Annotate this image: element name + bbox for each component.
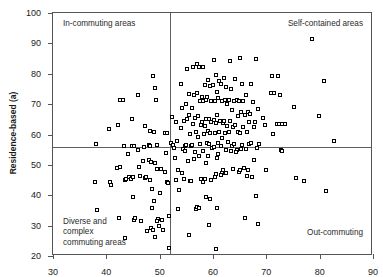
data-point xyxy=(133,216,137,220)
data-point xyxy=(252,125,256,129)
data-point xyxy=(248,112,252,116)
data-point xyxy=(245,174,249,178)
y-axis-title: Residence-based (a) xyxy=(0,0,16,277)
data-point xyxy=(229,149,233,153)
data-point xyxy=(179,82,183,86)
data-point xyxy=(136,148,140,152)
x-axis-tick: 40 xyxy=(106,254,107,259)
data-point xyxy=(271,132,275,136)
data-point xyxy=(215,113,219,117)
data-point xyxy=(233,123,237,127)
data-point xyxy=(256,107,260,111)
data-point xyxy=(122,144,126,148)
y-axis-tick-label: 30 xyxy=(31,221,41,231)
data-point xyxy=(176,207,180,211)
x-axis-tick: 80 xyxy=(320,254,321,259)
data-point xyxy=(94,142,98,146)
data-point xyxy=(201,99,205,103)
data-point xyxy=(167,246,171,250)
data-point xyxy=(219,82,223,86)
data-point xyxy=(278,93,282,97)
data-point xyxy=(208,197,212,201)
data-point xyxy=(332,139,336,143)
data-point xyxy=(192,157,196,161)
data-point xyxy=(142,145,146,149)
data-point xyxy=(251,100,255,104)
data-point xyxy=(254,194,258,198)
data-point xyxy=(236,114,240,118)
quadrant-label-diverse-complex: Diverse and complex commuting areas xyxy=(63,217,126,249)
data-point xyxy=(157,224,161,228)
data-point xyxy=(109,183,113,187)
data-point xyxy=(324,189,328,193)
data-point xyxy=(264,168,268,172)
x-axis-tick: 30 xyxy=(53,254,54,259)
x-axis-tick-label: 60 xyxy=(208,267,218,277)
x-axis-tick: 50 xyxy=(160,254,161,259)
data-point xyxy=(310,37,314,41)
data-point xyxy=(252,158,256,162)
x-axis-tick-label: 90 xyxy=(368,267,378,277)
data-point xyxy=(161,228,165,232)
y-axis-tick-label: 20 xyxy=(31,251,41,261)
data-point xyxy=(187,92,191,96)
data-point xyxy=(118,165,122,169)
data-point xyxy=(180,171,184,175)
x-axis-tick-label: 80 xyxy=(315,267,325,277)
data-point xyxy=(95,208,99,212)
y-axis-tick-label: 70 xyxy=(31,99,41,109)
data-point xyxy=(245,130,249,134)
y-axis-tick-label: 40 xyxy=(31,190,41,200)
data-point xyxy=(203,83,207,87)
data-point xyxy=(250,175,254,179)
data-point xyxy=(247,120,251,124)
data-point xyxy=(232,99,236,103)
data-point xyxy=(185,117,189,121)
data-point xyxy=(276,74,280,78)
data-point xyxy=(93,180,97,184)
y-axis-title-text: Residence-based (a) xyxy=(8,58,18,208)
data-point xyxy=(116,123,120,127)
x-axis-tick: 60 xyxy=(213,254,214,259)
data-point xyxy=(170,115,174,119)
data-point xyxy=(138,174,142,178)
data-point xyxy=(256,222,260,226)
data-point xyxy=(201,149,205,153)
data-point xyxy=(155,143,159,147)
data-point xyxy=(214,73,218,77)
data-point xyxy=(153,86,157,90)
data-point xyxy=(153,161,157,165)
data-point xyxy=(212,58,216,62)
data-point xyxy=(227,130,231,134)
data-point xyxy=(246,168,250,172)
data-point xyxy=(225,124,229,128)
data-point xyxy=(175,139,179,143)
chart-root: Residence-based (a) In-commuting areas S… xyxy=(0,0,383,277)
data-point xyxy=(238,131,242,135)
y-axis-tick: 80 xyxy=(48,74,53,75)
data-point xyxy=(216,152,220,156)
y-axis-tick: 70 xyxy=(48,104,53,105)
data-point xyxy=(228,59,232,63)
data-point xyxy=(150,187,154,191)
y-axis-tick-label: 60 xyxy=(31,130,41,140)
data-point xyxy=(187,233,191,237)
y-axis-tick: 50 xyxy=(48,165,53,166)
data-point xyxy=(177,188,181,192)
data-point xyxy=(206,78,210,82)
data-point xyxy=(231,167,235,171)
data-point xyxy=(153,235,157,239)
data-point xyxy=(241,125,245,129)
data-point xyxy=(131,195,135,199)
data-point xyxy=(185,67,189,71)
data-point xyxy=(201,65,205,69)
data-point xyxy=(163,170,167,174)
data-point xyxy=(270,74,274,78)
x-axis-tick: 90 xyxy=(373,254,374,259)
data-point xyxy=(233,77,237,81)
x-axis-tick: 70 xyxy=(266,254,267,259)
data-point xyxy=(189,179,193,183)
data-point xyxy=(152,199,156,203)
data-point xyxy=(188,132,192,136)
data-point xyxy=(173,156,177,160)
